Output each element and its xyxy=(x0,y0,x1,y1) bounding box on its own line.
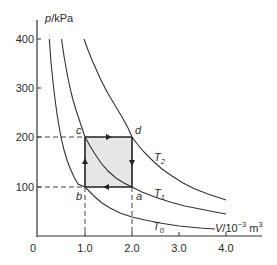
y-tick-200: 200 xyxy=(16,131,34,143)
point-label-d: d xyxy=(135,124,142,136)
isotherm-t0-curve xyxy=(49,39,215,229)
point-label-b: b xyxy=(76,190,82,202)
x-tick-2: 2.0 xyxy=(124,242,139,254)
x-tick-3: 3.0 xyxy=(171,242,186,254)
label-t0: T0 xyxy=(153,220,165,235)
x-tick-4: 4.0 xyxy=(218,242,233,254)
y-axis-label: p/kPa xyxy=(44,12,74,24)
x-origin: 0 xyxy=(30,242,36,254)
x-axis-label: V/10−3 m3 xyxy=(215,220,263,234)
cycle-area xyxy=(85,137,132,187)
pv-diagram: 400 300 200 100 0 1.0 2.0 3.0 4.0 p/kPa … xyxy=(0,0,277,265)
x-tick-1: 1.0 xyxy=(77,242,92,254)
point-label-c: c xyxy=(76,124,82,136)
y-tick-400: 400 xyxy=(16,33,34,45)
y-tick-100: 100 xyxy=(16,181,34,193)
pv-diagram-svg: 400 300 200 100 0 1.0 2.0 3.0 4.0 p/kPa … xyxy=(0,0,277,265)
point-label-a: a xyxy=(136,190,142,202)
y-tick-300: 300 xyxy=(16,82,34,94)
label-t1: T1 xyxy=(154,187,165,202)
